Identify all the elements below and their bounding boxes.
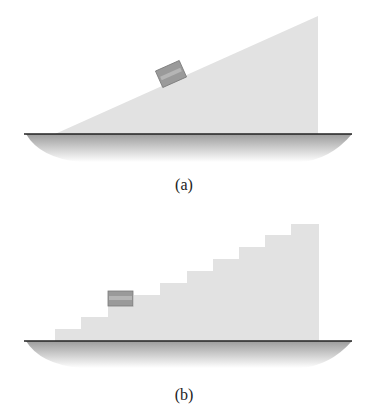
ramp bbox=[55, 16, 318, 134]
panel-b-stairs: (b) bbox=[0, 200, 368, 408]
stairs-diagram bbox=[0, 200, 368, 408]
panel-a-ramp: (a) bbox=[0, 0, 368, 200]
ground-shadow bbox=[26, 134, 352, 162]
ground-shadow bbox=[26, 341, 352, 368]
staircase bbox=[55, 224, 319, 341]
block bbox=[108, 291, 133, 306]
label-b: (b) bbox=[0, 386, 368, 404]
ramp-diagram bbox=[0, 0, 368, 200]
label-a: (a) bbox=[0, 176, 368, 194]
